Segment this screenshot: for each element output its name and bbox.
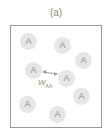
- interaction-label: WAA: [38, 78, 52, 89]
- double-arrow-icon: [41, 69, 59, 77]
- atom-a: A: [20, 33, 37, 50]
- atom-a: A: [75, 52, 92, 69]
- interaction-symbol: W: [38, 78, 46, 87]
- atom-a: A: [19, 96, 36, 113]
- atom-a: A: [54, 37, 71, 54]
- atom-a: A: [58, 70, 75, 87]
- interaction-subscript: AA: [46, 83, 53, 89]
- atom-a: A: [49, 106, 66, 123]
- atom-a: A: [25, 62, 42, 79]
- atom-a: A: [73, 88, 90, 105]
- panel-label: (a): [0, 7, 112, 18]
